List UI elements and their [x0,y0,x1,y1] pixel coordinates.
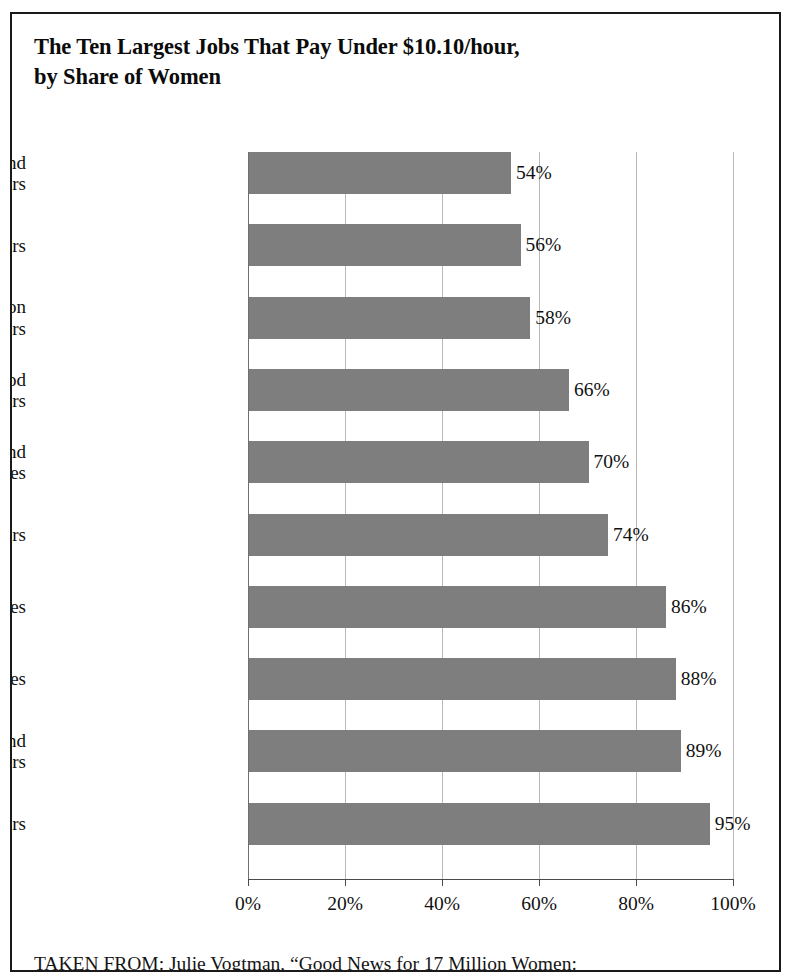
bar [249,514,608,556]
bar-category-label: Home health aides [10,668,26,689]
x-axis-label-40pct: 40% [397,893,487,915]
x-axis-tick-80pct [636,879,637,886]
x-axis-label-60pct: 60% [494,893,584,915]
x-axis-label-80pct: 80% [591,893,681,915]
bar-value-label: 89% [686,730,722,772]
bar-row: Combined food preparers and servers66% [12,369,779,411]
x-axis-label-100pct: 100% [688,893,778,915]
bar [249,369,569,411]
bar-row: Home health aides88% [12,658,779,700]
x-axis-tick-20pct [345,879,346,886]
bar-category-label: Child care workers [10,813,26,834]
bar-value-label: 88% [681,658,717,700]
bar [249,658,676,700]
bar-category-label: Hand packers and packagers [10,152,26,195]
bar [249,441,589,483]
source-caption: TAKEN FROM: Julie Vogtman, “Good News fo… [34,952,754,972]
bar-category-label: Bartenders [10,235,26,256]
bar-row: Maids and housekeepers89% [12,730,779,772]
bar-value-label: 86% [671,586,707,628]
bar [249,730,681,772]
bar-row: Child care workers95% [12,803,779,845]
bar-value-label: 56% [526,224,562,266]
bar [249,586,666,628]
x-axis-tick-0pct [248,879,249,886]
x-axis-tick-60pct [539,879,540,886]
bar-value-label: 58% [535,297,571,339]
figure-frame: The Ten Largest Jobs That Pay Under $10.… [10,12,781,972]
bar-value-label: 66% [574,369,610,411]
bar-category-label: Combined food preparers and servers [10,369,26,412]
bar-row: Hand packers and packagers54% [12,152,779,194]
x-axis-label-20pct: 20% [300,893,390,915]
chart-plot-area: Hand packers and packagers54%Bartenders5… [12,14,779,970]
bar-category-label: Waiters and waitresses [10,441,26,484]
x-axis-tick-100pct [733,879,734,886]
bar-category-label: Maids and housekeepers [10,730,26,773]
bar-row: Personal care aides86% [12,586,779,628]
bar-row: Waiters and waitresses70% [12,441,779,483]
bar-category-label: Personal care aides [10,596,26,617]
bar [249,803,710,845]
x-axis-line [248,879,734,880]
bar-row: Bartenders56% [12,224,779,266]
bar-value-label: 95% [715,803,751,845]
x-axis-label-0pct: 0% [203,893,293,915]
bar-row: Cashiers74% [12,514,779,556]
bar-row: Food preparation workers58% [12,297,779,339]
bar-value-label: 74% [613,514,649,556]
bar [249,152,511,194]
x-axis-tick-40pct [442,879,443,886]
bar-category-label: Food preparation workers [10,296,26,339]
bar [249,297,530,339]
bar-value-label: 54% [516,152,552,194]
bar-value-label: 70% [594,441,630,483]
bar-category-label: Cashiers [10,524,26,545]
bar [249,224,521,266]
